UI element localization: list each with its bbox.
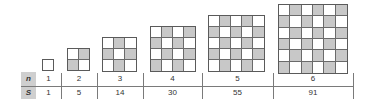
row-label-s: S [21,88,36,97]
checkerboard-n1 [42,59,54,71]
shaded-square [151,60,162,71]
unshaded-square [162,38,173,49]
shaded-square [231,27,242,38]
shaded-square [162,27,173,38]
table-cell-n-1: 1 [36,74,61,83]
column-divider [353,73,354,99]
shaded-square [253,27,264,38]
table-cell-s-6: 91 [273,88,353,97]
unshaded-square [324,28,335,39]
shaded-square [336,28,347,39]
shaded-square [184,27,195,38]
unshaded-square [231,16,242,27]
row-label-n: n [21,74,36,83]
unshaded-square [114,49,125,60]
unshaded-square [151,49,162,60]
unshaded-square [125,38,136,49]
checkerboard-n6 [278,4,348,74]
table-cell-n-6: 6 [273,74,353,83]
shaded-square [290,28,301,39]
table-cell-n-2: 2 [61,74,97,83]
table-cell-s-1: 1 [36,88,61,97]
unshaded-square [220,49,231,60]
shaded-square [173,60,184,71]
unshaded-square [242,27,253,38]
shaded-square [302,16,313,27]
shaded-square [242,16,253,27]
table-cell-n-3: 3 [97,74,143,83]
unshaded-square [220,27,231,38]
unshaded-square [324,50,335,61]
unshaded-square [151,27,162,38]
unshaded-square [290,62,301,73]
unshaded-square [313,39,324,50]
unshaded-square [302,5,313,16]
shaded-square [279,39,290,50]
shaded-square [279,62,290,73]
checkerboard-n5 [208,15,265,72]
unshaded-square [279,50,290,61]
unshaded-square [290,39,301,50]
table-cell-s-2: 5 [61,88,97,97]
unshaded-square [302,28,313,39]
shaded-square [173,38,184,49]
shaded-square [313,50,324,61]
unshaded-square [79,60,90,71]
unshaded-square [68,49,79,60]
unshaded-square [253,38,264,49]
shaded-square [151,38,162,49]
unshaded-square [336,16,347,27]
unshaded-square [43,60,53,70]
shaded-square [79,49,90,60]
unshaded-square [242,49,253,60]
unshaded-square [173,27,184,38]
shaded-square [253,49,264,60]
table-cell-n-5: 5 [202,74,273,83]
shaded-square [242,38,253,49]
shaded-square [220,60,231,71]
unshaded-square [336,62,347,73]
shaded-square [231,49,242,60]
shaded-square [324,62,335,73]
shaded-square [125,49,136,60]
unshaded-square [209,38,220,49]
shaded-square [324,16,335,27]
unshaded-square [279,28,290,39]
shaded-square [290,50,301,61]
shaded-square [209,27,220,38]
table-cell-s-3: 14 [97,88,143,97]
table-cell-s-5: 55 [202,88,273,97]
shaded-square [114,38,125,49]
checkerboard-n3 [102,37,137,72]
unshaded-square [253,16,264,27]
shaded-square [162,49,173,60]
unshaded-square [253,60,264,71]
shaded-square [114,60,125,71]
shaded-square [220,38,231,49]
shaded-square [184,49,195,60]
unshaded-square [324,5,335,16]
unshaded-square [125,60,136,71]
unshaded-square [184,38,195,49]
unshaded-square [336,39,347,50]
shaded-square [302,39,313,50]
unshaded-square [279,5,290,16]
shaded-square [313,5,324,16]
shaded-square [103,49,114,60]
checkerboard-n2 [67,48,90,71]
shaded-square [302,62,313,73]
shaded-square [220,16,231,27]
unshaded-square [313,62,324,73]
shaded-square [279,16,290,27]
table-row-divider [21,86,353,87]
table-cell-n-4: 4 [143,74,202,83]
unshaded-square [231,60,242,71]
shaded-square [242,60,253,71]
unshaded-square [290,16,301,27]
unshaded-square [103,60,114,71]
shaded-square [324,39,335,50]
shaded-square [209,49,220,60]
unshaded-square [184,60,195,71]
unshaded-square [313,16,324,27]
table-cell-s-4: 30 [143,88,202,97]
